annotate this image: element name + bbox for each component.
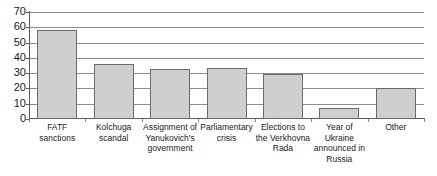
y-tick-label: 70: [2, 6, 26, 17]
y-tick-label: 40: [2, 52, 26, 63]
bar: [37, 30, 77, 119]
bar-chart: 706050403020100 FATF sanctionsKolchuga s…: [0, 0, 437, 176]
y-tick-label: 20: [2, 82, 26, 93]
bar: [150, 69, 190, 119]
x-axis-labels: FATF sanctionsKolchuga scandalAssignment…: [29, 122, 425, 176]
x-axis-category-label: Parliamentary crisis: [198, 122, 254, 143]
x-axis-category-label: Other: [368, 122, 424, 133]
x-axis-category-label: FATF sanctions: [29, 122, 85, 143]
bar: [263, 74, 303, 119]
y-tick-label: 30: [2, 67, 26, 78]
y-tick-label: 60: [2, 21, 26, 32]
x-axis-category-label: Assignment of Yanukovich's government: [142, 122, 198, 154]
bar: [207, 68, 247, 119]
y-axis: 706050403020100: [0, 0, 26, 176]
x-axis-category-label: Kolchuga scandal: [85, 122, 141, 143]
bar: [319, 108, 359, 119]
bars-layer: [29, 12, 424, 119]
bar: [376, 88, 416, 119]
y-tick-label: 0: [2, 113, 26, 124]
x-axis-category-label: Year of Ukraine announced in Russia: [311, 122, 367, 164]
y-tick-label: 50: [2, 37, 26, 48]
x-axis-category-label: Elections to the Verkhovna Rada: [255, 122, 311, 154]
bar: [94, 64, 134, 119]
y-tick-label: 10: [2, 98, 26, 109]
